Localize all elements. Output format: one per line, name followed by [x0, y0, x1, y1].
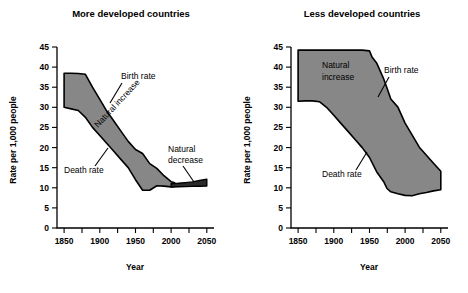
y-tick-label: 25 [40, 122, 50, 132]
y-axis-title-right: Rate per 1,000 people [242, 96, 252, 184]
death-rate-label-right: Death rate [322, 169, 362, 179]
y-tick-label: 20 [274, 143, 284, 153]
y-tick-label: 40 [40, 62, 50, 72]
x-tick-label: 2000 [162, 236, 181, 246]
x-tick-labels-left: 1850 1900 1950 2000 2050 [55, 236, 217, 246]
natural-increase-label-line1-right: Natural [322, 60, 350, 70]
y-tick-label: 5 [44, 203, 49, 213]
y-tick-label: 35 [274, 82, 284, 92]
y-tick-label: 30 [40, 102, 50, 112]
x-tick-label: 2050 [197, 236, 216, 246]
x-tick-label: 2000 [396, 236, 415, 246]
x-axis-title-left: Year [126, 262, 145, 272]
birth-rate-label-right: Birth rate [384, 65, 419, 75]
y-tick-labels-left: 45 40 35 30 25 20 15 10 5 0 [40, 42, 50, 233]
y-tick-label: 15 [274, 163, 284, 173]
y-tick-label: 10 [40, 183, 50, 193]
x-axis-title-right: Year [360, 262, 379, 272]
y-ticks-right [286, 47, 291, 228]
birth-rate-label-left: Birth rate [121, 71, 156, 81]
natural-increase-label-line2-right: increase [322, 72, 354, 82]
x-tick-label: 2050 [431, 236, 450, 246]
x-tick-label: 1850 [55, 236, 74, 246]
y-tick-label: 0 [278, 223, 283, 233]
y-tick-label: 5 [278, 203, 283, 213]
x-ticks-left [64, 228, 207, 233]
x-tick-labels-right: 1850 1900 1950 2000 2050 [289, 236, 451, 246]
panel-title-right: Less developed countries [304, 8, 421, 19]
y-axis-title-left: Rate per 1,000 people [8, 96, 18, 184]
y-tick-label: 30 [274, 102, 284, 112]
y-tick-label: 35 [40, 82, 50, 92]
y-tick-label: 45 [274, 42, 284, 52]
demographic-transition-figure: More developed countries Rate per 1,000 … [0, 0, 468, 293]
x-tick-label: 1850 [289, 236, 308, 246]
natural-decrease-label-line1-left: Natural [168, 144, 196, 154]
panel-less-developed-countries: Less developed countries Rate per 1,000 … [234, 0, 468, 293]
y-tick-label: 25 [274, 122, 284, 132]
panel-title-left: More developed countries [72, 8, 190, 19]
x-tick-label: 1900 [324, 236, 343, 246]
death-rate-label-left: Death rate [64, 165, 104, 175]
natural-decrease-band-left [171, 179, 207, 187]
natural-decrease-leader-left [183, 166, 194, 182]
y-tick-label: 20 [40, 143, 50, 153]
death-rate-leader-right [356, 152, 367, 170]
x-ticks-right [298, 228, 441, 233]
natural-decrease-label-line2-left: decrease [168, 155, 203, 165]
natural-increase-band-right [298, 50, 441, 196]
y-tick-label: 45 [40, 42, 50, 52]
x-tick-label: 1900 [90, 236, 109, 246]
x-tick-label: 1950 [360, 236, 379, 246]
y-tick-label: 15 [40, 163, 50, 173]
y-tick-label: 0 [44, 223, 49, 233]
panel-more-developed-countries: More developed countries Rate per 1,000 … [0, 0, 234, 293]
y-tick-label: 10 [274, 183, 284, 193]
y-ticks-left [52, 47, 57, 228]
y-tick-label: 40 [274, 62, 284, 72]
death-rate-leader-left [95, 148, 108, 166]
x-tick-label: 1950 [126, 236, 145, 246]
y-tick-labels-right: 45 40 35 30 25 20 15 10 5 0 [274, 42, 284, 233]
